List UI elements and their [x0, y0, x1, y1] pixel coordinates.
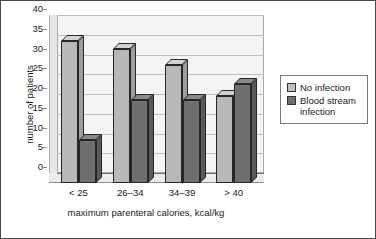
bar-chart: number of patients 4035302520151050 < 25… [1, 1, 376, 239]
y-axis-tick-label: 10 [21, 123, 43, 133]
bar-front-face [79, 140, 96, 183]
y-axis-tick-label: 20 [21, 83, 43, 93]
y-axis-tick-mark [43, 147, 47, 148]
bar-side-face [251, 78, 257, 183]
bar [61, 41, 78, 183]
y-axis-tick-mark [43, 68, 47, 69]
bar [165, 65, 182, 184]
bar-front-face [165, 65, 182, 184]
bar [234, 84, 251, 183]
x-axis-category-label: 34–39 [154, 187, 210, 198]
x-axis-category-label: < 25 [51, 187, 107, 198]
x-axis-category-label: 26–34 [102, 187, 158, 198]
legend-item: Blood stream infection [287, 95, 362, 117]
y-axis-tick-mark [43, 128, 47, 129]
bar-side-face [200, 94, 206, 183]
bar-front-face [216, 96, 233, 183]
bar-front-face [234, 84, 251, 183]
y-axis-tick-label: 35 [21, 24, 43, 34]
bar-group [113, 25, 148, 183]
bar-side-face [148, 94, 154, 183]
bar-front-face [131, 100, 148, 183]
legend-item-label: No infection [300, 82, 350, 93]
bar [183, 100, 200, 183]
y-axis-tick-label: 40 [21, 4, 43, 14]
bar [113, 49, 130, 183]
bar-front-face [113, 49, 130, 183]
bar-group [165, 25, 200, 183]
bar [216, 96, 233, 183]
y-axis-tick-mark [43, 167, 47, 168]
y-axis-tick-label: 0 [21, 162, 43, 172]
y-axis-tick-mark [43, 49, 47, 50]
y-axis-tick-labels: 4035302520151050 [15, 1, 43, 201]
y-axis-tick-mark [43, 108, 47, 109]
legend-item-label: Blood stream infection [300, 95, 362, 117]
legend-item: No infection [287, 82, 362, 93]
chart-figure: number of patients 4035302520151050 < 25… [0, 0, 376, 239]
bar [131, 100, 148, 183]
y-axis-tick-mark [43, 29, 47, 30]
x-axis-title: maximum parenteral calories, kcal/kg [21, 207, 271, 218]
x-axis-category-label: > 40 [206, 187, 262, 198]
bar-group [61, 25, 96, 183]
y-axis-tick-label: 30 [21, 44, 43, 54]
bar-side-face [96, 134, 102, 183]
plot-area [49, 15, 264, 183]
bar [79, 140, 96, 183]
y-axis-tick-label: 25 [21, 63, 43, 73]
legend-swatch-icon [287, 83, 296, 92]
bar-group [216, 25, 251, 183]
y-axis-tick-mark [43, 9, 47, 10]
y-axis-tick-label: 5 [21, 142, 43, 152]
bar-front-face [183, 100, 200, 183]
bar-front-face [61, 41, 78, 183]
chart-legend: No infectionBlood stream infection [280, 75, 368, 124]
y-axis-tick-mark [43, 88, 47, 89]
gridline [57, 15, 264, 16]
y-axis-tick-label: 15 [21, 103, 43, 113]
legend-swatch-icon [287, 96, 296, 105]
